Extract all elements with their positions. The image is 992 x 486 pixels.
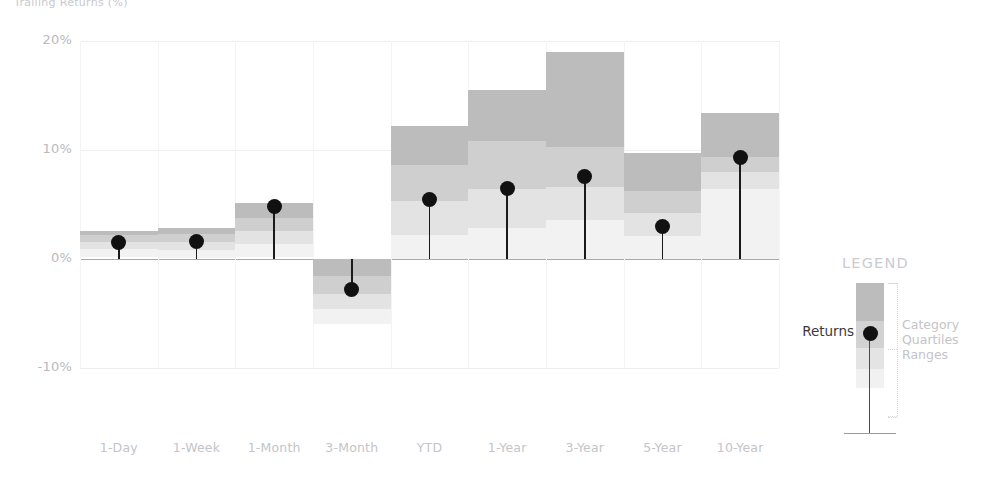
y-axis-tick-20: 20% [43,32,73,47]
legend-desc-line-1: Category [902,317,959,332]
legend-marker-dot [863,326,878,341]
x-axis-tick-3-month: 3-Month [313,440,391,455]
quartile-band [546,52,624,147]
return-point-1-week[interactable] [189,234,204,249]
chart-canvas: Trailing Returns (%) 20%10%0%-10% 1-Day1… [0,0,992,486]
legend-bracket-tick [888,416,897,417]
x-axis-tick-10-year: 10-Year [701,440,779,455]
return-stem-ytd [429,199,430,259]
return-point-ytd[interactable] [422,192,437,207]
legend-returns-label: Returns [796,323,854,339]
legend-quartile-band [856,283,884,321]
legend-description: Category Quartiles Ranges [902,317,959,362]
legend-desc-line-3: Ranges [902,347,959,362]
bar-3-month [313,41,391,368]
return-point-10-year[interactable] [733,150,748,165]
legend-marker-stem [869,333,870,433]
x-axis-tick-1-day: 1-Day [80,440,158,455]
legend-baseline [844,433,896,434]
y-axis-tick-10: 10% [43,141,73,156]
y-axis-tick--10: -10% [38,359,72,374]
return-point-5-year[interactable] [655,219,670,234]
chart-title: Trailing Returns (%) [14,0,128,9]
y-axis-tick-0: 0% [51,250,72,265]
return-stem-1-year [506,188,507,259]
x-axis-tick-1-month: 1-Month [235,440,313,455]
bar-1-week [158,41,236,368]
return-stem-10-year [739,158,740,259]
return-point-1-month[interactable] [267,199,282,214]
x-axis-tick-1-year: 1-Year [468,440,546,455]
quartile-band [624,191,702,213]
return-point-1-year[interactable] [500,181,515,196]
x-axis-tick-5-year: 5-Year [624,440,702,455]
plot-area [80,41,779,368]
return-point-3-year[interactable] [577,169,592,184]
legend-bracket [888,283,898,418]
return-stem-1-month [273,207,274,259]
quartile-band [468,90,546,141]
x-axis-labels: 1-Day1-Week1-Month3-MonthYTD1-Year3-Year… [80,440,779,460]
bar-5-year [624,41,702,368]
legend-bracket-tick [888,283,897,284]
legend-desc-line-2: Quartiles [902,332,959,347]
quartile-band [624,153,702,191]
x-axis-tick-ytd: YTD [391,440,469,455]
return-stem-3-year [584,176,585,259]
gridline--10 [80,368,779,369]
bar-1-day [80,41,158,368]
legend: LEGEND Returns Category Quartiles Ranges [800,255,990,455]
vertical-gridline [779,41,780,368]
quartile-band [313,309,391,324]
legend-bracket-tick [888,349,897,350]
x-axis-tick-3-year: 3-Year [546,440,624,455]
quartile-band [391,126,469,165]
legend-heading: LEGEND [842,255,909,271]
x-axis-tick-1-week: 1-Week [158,440,236,455]
y-axis-labels: 20%10%0%-10% [0,41,72,368]
